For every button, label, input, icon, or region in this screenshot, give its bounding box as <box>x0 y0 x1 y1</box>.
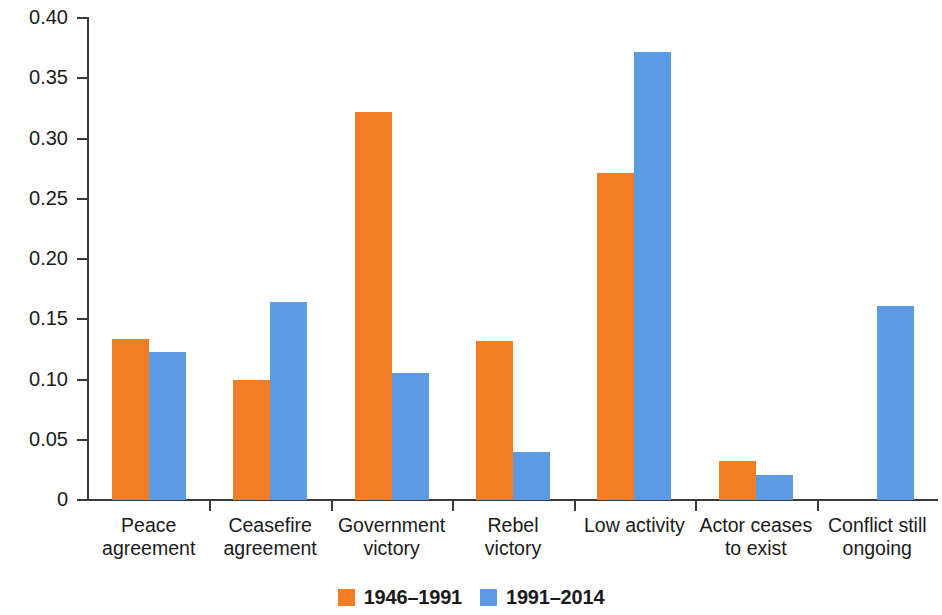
y-axis-tick <box>77 138 88 140</box>
x-axis-category-label: Governmentvictory <box>331 514 452 560</box>
bar <box>877 306 914 500</box>
x-axis-category-label-line: Rebel <box>452 514 573 537</box>
x-axis-category-label: Peaceagreement <box>88 514 209 560</box>
bar <box>355 112 392 500</box>
legend-item: 1946–1991 <box>338 586 462 609</box>
x-axis-category-label: Rebelvictory <box>452 514 573 560</box>
y-axis-tick-label: 0.30 <box>4 128 68 148</box>
bar <box>634 52 671 500</box>
bar <box>476 341 513 500</box>
y-axis-tick <box>77 439 88 441</box>
legend-swatch-icon <box>480 589 497 606</box>
y-axis-tick-label: 0.10 <box>4 369 68 389</box>
x-axis-category-label-line: agreement <box>88 537 209 560</box>
x-axis-category-label-line: Ceasefire <box>209 514 330 537</box>
y-axis-tick <box>77 318 88 320</box>
bar <box>112 339 149 500</box>
x-axis-category-label: Low activity <box>574 514 695 537</box>
x-axis-tick <box>574 500 576 511</box>
x-axis-tick <box>331 500 333 511</box>
y-axis-tick-label: 0.35 <box>4 67 68 87</box>
bar <box>513 452 550 500</box>
bar <box>233 380 270 501</box>
x-axis-category-label: Actor ceasesto exist <box>695 514 816 560</box>
x-axis-tick <box>817 500 819 511</box>
chart-legend: 1946–19911991–2014 <box>0 586 942 609</box>
y-axis-tick-label: 0.20 <box>4 248 68 268</box>
x-axis-category-label-line: victory <box>331 537 452 560</box>
legend-item: 1991–2014 <box>480 586 604 609</box>
x-axis-category-label-line: Actor ceases <box>695 514 816 537</box>
x-axis-category-label-line: agreement <box>209 537 330 560</box>
x-axis-category-label-line: ongoing <box>817 537 938 560</box>
y-axis-tick-label: 0 <box>4 489 68 509</box>
x-axis-category-label: Ceasefireagreement <box>209 514 330 560</box>
y-axis-tick <box>77 258 88 260</box>
bar-chart: Proportion of all state-based violent co… <box>0 0 942 615</box>
x-axis-category-label-line: to exist <box>695 537 816 560</box>
bar <box>719 461 756 500</box>
legend-label: 1991–2014 <box>506 586 604 609</box>
bar <box>756 475 793 500</box>
x-axis-category-label-line: Government <box>331 514 452 537</box>
y-axis-tick <box>77 198 88 200</box>
x-axis-category-label-line: Peace <box>88 514 209 537</box>
bar <box>270 302 307 500</box>
plot-area <box>88 18 938 500</box>
x-axis-tick <box>452 500 454 511</box>
y-axis-tick-label: 0.15 <box>4 308 68 328</box>
y-axis-tick <box>77 17 88 19</box>
y-axis-tick-label: 0.25 <box>4 188 68 208</box>
y-axis-tick <box>77 77 88 79</box>
y-axis-tick <box>77 379 88 381</box>
x-axis-category-label: Conflict stillongoing <box>817 514 938 560</box>
bar <box>597 173 634 500</box>
x-axis-category-label-line: victory <box>452 537 573 560</box>
legend-label: 1946–1991 <box>364 586 462 609</box>
x-axis-tick <box>695 500 697 511</box>
y-axis-tick-label: 0.05 <box>4 429 68 449</box>
legend-swatch-icon <box>338 589 355 606</box>
x-axis-category-label-line: Conflict still <box>817 514 938 537</box>
bar <box>392 373 429 500</box>
x-axis-tick <box>209 500 211 511</box>
bar <box>149 352 186 500</box>
x-axis-category-label-line: Low activity <box>574 514 695 537</box>
y-axis-tick-label: 0.40 <box>4 7 68 27</box>
y-axis-tick <box>77 499 88 501</box>
